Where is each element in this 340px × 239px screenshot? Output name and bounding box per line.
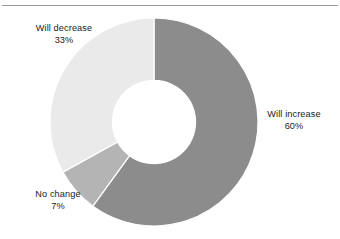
slice-label-will-decrease: Will decrease 33%: [4, 22, 124, 47]
slice-label-will-increase: Will increase 60%: [248, 108, 340, 133]
slice-label-will-increase-name: Will increase: [248, 108, 340, 120]
slice-label-no-change-value: 7%: [6, 200, 110, 212]
slice-label-will-decrease-value: 33%: [4, 34, 124, 46]
slice-label-will-increase-value: 60%: [248, 120, 340, 132]
donut-chart-figure: Will decrease 33% Will increase 60% No c…: [0, 0, 340, 239]
slice-label-no-change-name: No change: [6, 188, 110, 200]
slice-label-will-decrease-name: Will decrease: [4, 22, 124, 34]
slice-label-no-change: No change 7%: [6, 188, 110, 213]
